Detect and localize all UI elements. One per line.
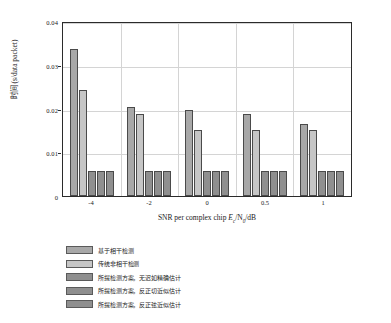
x-tick-label: 0.5 [236,199,294,211]
bar[interactable] [194,130,202,196]
bar[interactable] [252,130,260,196]
bar-plot [63,23,351,196]
bar[interactable] [203,171,211,196]
bar[interactable] [88,171,96,196]
bar[interactable] [185,110,193,196]
legend-swatch [66,273,93,281]
bar-group [243,23,287,196]
bar[interactable] [318,171,326,196]
y-tick-label: 0.04 [46,19,58,26]
bar-group [300,23,344,196]
bar[interactable] [212,171,220,196]
legend-item[interactable]: 所提检测方案，反正弦近似估计 [66,298,266,310]
bar[interactable] [163,171,171,196]
y-tick-label: 0 [55,194,58,201]
legend-label: 所提检测方案，反正弦近似估计 [98,300,181,309]
bar[interactable] [106,171,114,196]
bar[interactable] [336,171,344,196]
bar[interactable] [327,171,335,196]
bar[interactable] [309,130,317,196]
y-tick-mark [58,110,61,111]
bar[interactable] [154,171,162,196]
x-axis-label-prefix: SNR per complex chip [158,213,228,222]
x-tick-label: -4 [62,199,120,211]
legend-swatch [66,300,93,308]
bar[interactable] [270,171,278,196]
x-tick-label: 1 [294,199,352,211]
x-axis-label-slash-n: /N [235,213,243,222]
legend-swatch [66,246,93,254]
bar-group [185,23,229,196]
x-tick-label: -2 [120,199,178,211]
legend-swatch [66,287,93,295]
bar[interactable] [145,171,153,196]
bar[interactable] [70,49,78,196]
bar[interactable] [261,171,269,196]
plot-area [62,22,352,197]
y-axis-ticks: 00.010.020.030.04 [22,22,58,197]
x-axis-label: SNR per complex chip Ec/N0/dB [62,213,352,224]
legend-label: 所提检测方案，反正切近似估计 [98,286,181,295]
y-tick-label: 0.02 [46,106,58,113]
legend-item[interactable]: 基于相干检测 [66,244,266,256]
y-axis-label: 时间 (s/data packet) [8,10,19,130]
legend-item[interactable]: 所提检测方案，无迟如精确估计 [66,271,266,283]
bar[interactable] [127,107,135,196]
legend-swatch [66,260,93,268]
y-tick-label: 0.03 [46,62,58,69]
bar[interactable] [79,90,87,196]
y-tick-label: 0.01 [46,150,58,157]
bar[interactable] [279,171,287,196]
x-tick-label: 0 [178,199,236,211]
legend-label: 所提检测方案，无迟如精确估计 [98,273,181,282]
chart-figure: 00.010.020.030.04 时间 (s/data packet) -4-… [0,0,391,323]
legend-item[interactable]: 传统非相干检测 [66,258,266,270]
x-axis-ticks: -4-200.51 [62,199,352,211]
bar-group [127,23,171,196]
legend-label: 传统非相干检测 [98,259,139,268]
bar-group [70,23,114,196]
chart-legend: 基于相干检测传统非相干检测所提检测方案，无迟如精确估计所提检测方案，反正切近似估… [66,244,266,312]
y-tick-mark [58,66,61,67]
bar[interactable] [136,114,144,196]
bar[interactable] [243,114,251,196]
y-tick-mark [58,153,61,154]
bar[interactable] [221,171,229,196]
legend-label: 基于相干检测 [98,246,133,255]
bar[interactable] [300,124,308,196]
bar[interactable] [97,171,105,196]
x-axis-label-suffix: /dB [245,213,256,222]
legend-item[interactable]: 所提检测方案，反正切近似估计 [66,285,266,297]
